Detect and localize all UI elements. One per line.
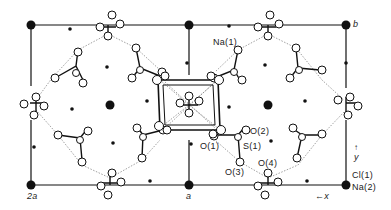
y-label-text: y xyxy=(354,152,359,162)
y-arrow-icon: ↑ xyxy=(354,143,358,152)
label-o3: O(3) xyxy=(225,167,244,177)
x-arrow-icon: ← xyxy=(315,191,324,201)
label-b-axis: b xyxy=(353,19,358,29)
label-a: a xyxy=(186,191,191,201)
label-s1: S(1) xyxy=(243,141,261,151)
label-na1: Na(1) xyxy=(213,37,237,47)
label-o1: O(1) xyxy=(200,141,219,151)
x-axis-label: ←x xyxy=(315,191,329,201)
label-cl1: Cl(1) xyxy=(352,170,373,180)
label-2a: 2a xyxy=(27,191,38,201)
x-label-text: x xyxy=(324,191,329,201)
y-axis-label: ↑y xyxy=(354,152,359,162)
label-o4: O(4) xyxy=(258,158,277,168)
label-na2: Na(2) xyxy=(352,182,376,192)
label-o2: O(2) xyxy=(250,126,269,136)
crystal-structure-diagram xyxy=(0,0,391,210)
